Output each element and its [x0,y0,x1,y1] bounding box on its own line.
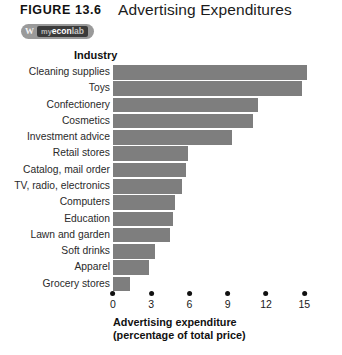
bar [113,228,170,243]
category-label: Cleaning supplies [0,65,110,80]
x-axis-title-line2: (percentage of total price) [113,329,246,342]
plot-area: Cleaning suppliesToysConfectioneryCosmet… [0,65,342,293]
x-axis-tick-label: 6 [187,298,193,310]
bar [113,260,149,275]
x-axis-tick-marker [187,291,192,296]
category-label: Cosmetics [0,114,110,129]
bar [113,114,253,129]
figure-title: Advertising Expenditures [118,1,292,19]
bar-row: Confectionery [0,98,342,113]
bar-row: Computers [0,195,342,210]
figure-header: FIGURE 13.6 Advertising Expenditures W m… [0,0,342,46]
myeconlab-my-text: my [41,28,52,36]
myeconlab-badge[interactable]: W my econ lab [21,24,94,39]
category-label: Apparel [0,260,110,275]
category-label: Soft drinks [0,244,110,259]
bar-row: Toys [0,81,342,96]
category-label: Investment advice [0,130,110,145]
category-label: TV, radio, electronics [0,179,110,194]
bar [113,81,302,96]
bar-row: Retail stores [0,146,342,161]
bar-row: Grocery stores [0,277,342,292]
x-axis-tick-label: 0 [110,298,116,310]
x-axis-title: Advertising expenditure (percentage of t… [113,316,246,341]
x-axis-tick: 9 [225,291,231,310]
y-axis-title: Industry [74,49,117,61]
bar [113,65,307,80]
bar-row: Catalog, mail order [0,163,342,178]
myeconlab-econ-text: econ [52,27,72,36]
category-label: Retail stores [0,146,110,161]
x-axis-tick-marker [111,291,116,296]
myeconlab-w-icon: W [25,27,34,36]
bar [113,212,173,227]
bar [113,244,155,259]
x-axis-tick-marker [149,291,154,296]
x-axis-tick-label: 12 [260,298,272,310]
bar [113,163,186,178]
bar-row: TV, radio, electronics [0,179,342,194]
bar-row: Education [0,212,342,227]
x-axis-tick: 0 [110,291,116,310]
bar-row: Soft drinks [0,244,342,259]
category-label: Lawn and garden [0,228,110,243]
x-axis: 03691215 [0,291,342,317]
category-label: Catalog, mail order [0,163,110,178]
bar [113,146,188,161]
x-axis-tick-label: 9 [225,298,231,310]
category-label: Confectionery [0,98,110,113]
bar [113,98,258,113]
bar-row: Lawn and garden [0,228,342,243]
category-label: Grocery stores [0,277,110,292]
myeconlab-wordmark: my econ lab [37,26,88,37]
bar-row: Investment advice [0,130,342,145]
x-axis-tick-label: 3 [148,298,154,310]
bar [113,179,182,194]
x-axis-tick: 6 [187,291,193,310]
x-axis-tick: 3 [148,291,154,310]
bar-row: Cosmetics [0,114,342,129]
x-axis-title-line1: Advertising expenditure [113,316,246,329]
category-label: Toys [0,81,110,96]
x-axis-tick-label: 15 [298,298,310,310]
category-label: Education [0,212,110,227]
bar-row: Cleaning supplies [0,65,342,80]
bar [113,277,130,292]
x-axis-tick: 12 [260,291,272,310]
bar-row: Apparel [0,260,342,275]
x-axis-tick-marker [225,291,230,296]
category-label: Computers [0,195,110,210]
x-axis-tick: 15 [298,291,310,310]
bar [113,130,232,145]
bar [113,195,175,210]
x-axis-tick-marker [264,291,269,296]
bar-chart: Industry Cleaning suppliesToysConfection… [0,46,342,355]
figure-number: FIGURE 13.6 [20,3,102,17]
x-axis-tick-marker [302,291,307,296]
myeconlab-lab-text: lab [72,27,84,36]
